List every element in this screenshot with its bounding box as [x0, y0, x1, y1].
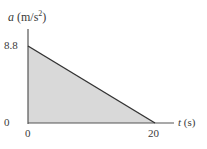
y-axis-unit-close: ): [42, 10, 46, 24]
x-axis-unit: (s): [184, 116, 196, 128]
x-axis-variable: t: [178, 116, 181, 128]
y-axis-unit: (m/s: [17, 10, 38, 24]
y-axis-label: a (m/s2): [8, 10, 46, 23]
y-tick-zero-label: 0: [4, 117, 10, 128]
x-tick-zero-label: 0: [25, 128, 31, 139]
x-tick-end-label: 20: [148, 128, 159, 139]
y-axis-variable: a: [8, 10, 14, 24]
y-tick-top-label: 8.8: [4, 40, 18, 51]
x-axis-label: t (s): [178, 117, 195, 128]
